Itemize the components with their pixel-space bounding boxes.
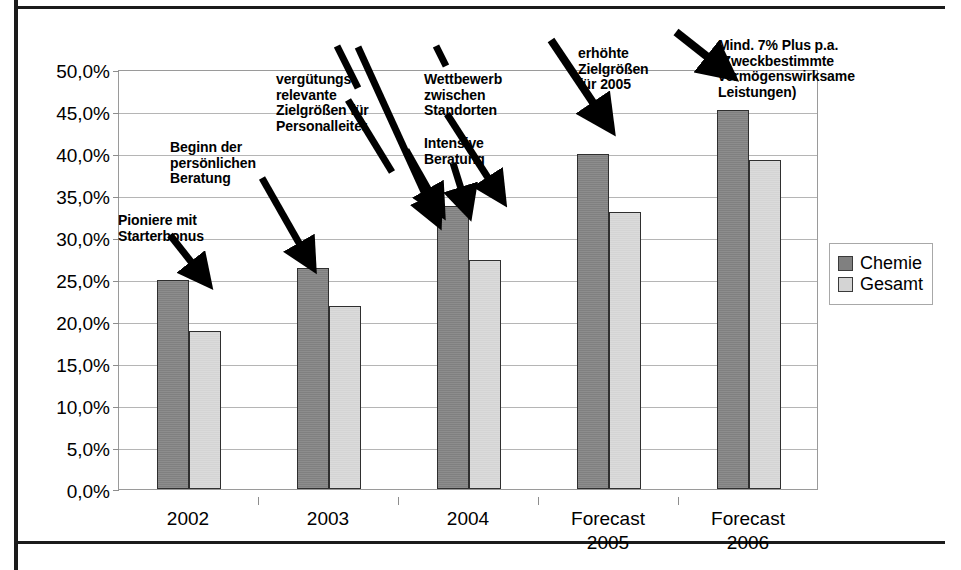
chart-page: 50,0% 45,0% 40,0% 35,0% 30,0% 25,0% 20,0…: [0, 0, 961, 570]
annotation-arrows: [0, 0, 961, 570]
